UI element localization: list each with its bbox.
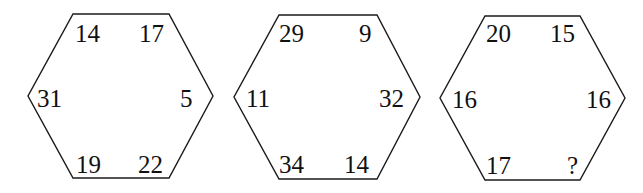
hexagon-2-top-right-number: 9 [359, 21, 372, 46]
hexagon-3-top-right-number: 15 [550, 21, 575, 46]
hexagon-1-right-number: 5 [180, 86, 193, 111]
hexagon-2-top-left-number: 29 [279, 21, 304, 46]
hexagon-2-bottom-left-number: 34 [279, 152, 304, 177]
hexagon-3-bottom-left-number: 17 [486, 153, 511, 178]
hexagon-2-bottom-right-number: 14 [344, 152, 369, 177]
hexagon-1-left-number: 31 [37, 86, 62, 111]
hexagon-3-left-number: 16 [452, 87, 477, 112]
hexagon-1-top-left-number: 14 [75, 21, 100, 46]
hexagon-3-unknown-number: ? [567, 153, 578, 178]
hexagon-3-right-number: 16 [586, 87, 611, 112]
hexagon-2-left-number: 11 [246, 86, 270, 111]
hexagon-1-top-right-number: 17 [139, 21, 164, 46]
hexagon-3-top-left-number: 20 [486, 21, 511, 46]
hexagon-1-bottom-left-number: 19 [76, 152, 101, 177]
hexagon-1-bottom-right-number: 22 [138, 152, 163, 177]
hexagon-2-right-number: 32 [379, 86, 404, 111]
